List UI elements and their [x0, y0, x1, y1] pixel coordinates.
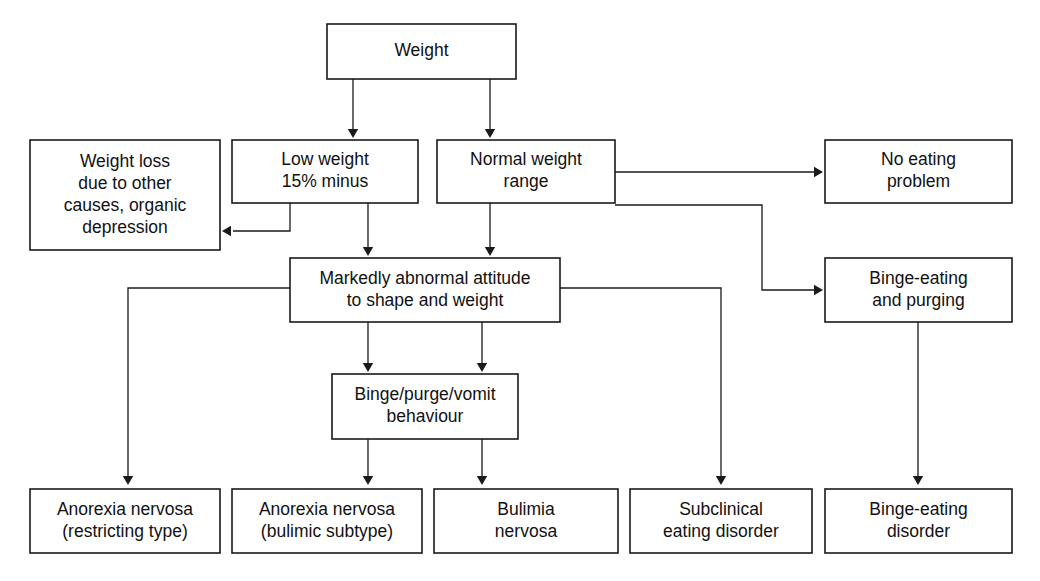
- node-label-line: Weight loss: [80, 151, 170, 171]
- arrowhead-icon: [913, 476, 923, 485]
- node-label-line: to shape and weight: [347, 290, 504, 310]
- flowchart-canvas: WeightWeight lossdue to othercauses, org…: [0, 0, 1040, 581]
- flowchart-diagram: WeightWeight lossdue to othercauses, org…: [0, 0, 1040, 581]
- node-label-line: causes, organic: [64, 195, 187, 215]
- node-low-weight: Low weight15% minus: [232, 140, 418, 203]
- arrowhead-icon: [123, 476, 133, 485]
- node-label-line: range: [504, 171, 549, 191]
- edge-normal-weight-to-binge-eating-purging: [615, 205, 823, 295]
- node-anorexia-restricting: Anorexia nervosa(restricting type): [30, 489, 220, 553]
- node-label-line: 15% minus: [282, 171, 369, 191]
- arrowhead-icon: [716, 476, 726, 485]
- arrowhead-icon: [363, 476, 373, 485]
- arrowhead-icon: [814, 167, 823, 177]
- edge-line: [128, 288, 290, 479]
- node-label-line: Binge/purge/vomit: [354, 384, 495, 404]
- node-weight-loss-other: Weight lossdue to othercauses, organicde…: [30, 140, 220, 250]
- arrowhead-icon: [477, 476, 487, 485]
- node-label-line: problem: [887, 171, 950, 191]
- node-label-line: nervosa: [495, 521, 558, 541]
- node-label-line: due to other: [78, 173, 172, 193]
- edge-attitude-to-anorexia-restricting: [123, 288, 290, 485]
- node-bulimia-nervosa: Bulimianervosa: [434, 489, 618, 553]
- node-markedly-abnormal-attitude: Markedly abnormal attitudeto shape and w…: [290, 258, 560, 322]
- edge-normal-weight-to-no-eating-problem: [615, 167, 823, 177]
- node-label-line: Anorexia nervosa: [259, 499, 395, 519]
- node-label-line: (restricting type): [62, 521, 187, 541]
- edge-attitude-to-subclinical: [560, 288, 726, 485]
- edge-line: [615, 205, 814, 290]
- node-no-eating-problem: No eatingproblem: [825, 140, 1012, 203]
- node-label-line: Binge-eating: [869, 268, 967, 288]
- edge-binge-eating-purging-to-binge-eating-disorder: [913, 322, 923, 485]
- arrowhead-icon: [485, 129, 495, 138]
- edge-binge-purge-vomit-to-anorexia-bulimic: [363, 439, 373, 485]
- edge-binge-purge-vomit-to-bulimia: [477, 439, 487, 485]
- edge-weight-to-low-weight: [348, 79, 358, 138]
- edge-attitude-to-binge-purge-vomit-right: [477, 322, 487, 372]
- node-label-line: (bulimic subtype): [261, 521, 393, 541]
- arrowhead-icon: [477, 363, 487, 372]
- node-label-line: No eating: [881, 149, 956, 169]
- node-weight: Weight: [327, 24, 516, 79]
- node-anorexia-bulimic: Anorexia nervosa(bulimic subtype): [232, 489, 422, 553]
- node-label-line: depression: [82, 217, 168, 237]
- edge-line: [560, 288, 721, 479]
- node-label-line: Low weight: [281, 149, 369, 169]
- node-label-line: Anorexia nervosa: [57, 499, 193, 519]
- node-label-line: Weight: [394, 40, 448, 60]
- node-label-line: behaviour: [387, 406, 464, 426]
- node-binge-eating-disorder: Binge-eatingdisorder: [825, 489, 1012, 553]
- arrowhead-icon: [485, 247, 495, 256]
- arrowhead-icon: [363, 247, 373, 256]
- node-label-line: Markedly abnormal attitude: [319, 268, 530, 288]
- node-binge-purge-vomit: Binge/purge/vomitbehaviour: [332, 374, 518, 439]
- node-subclinical-eating-disorder: Subclinicaleating disorder: [630, 489, 812, 553]
- node-label-line: Binge-eating: [869, 499, 967, 519]
- node-label-line: and purging: [872, 290, 964, 310]
- node-label-line: eating disorder: [663, 521, 779, 541]
- arrowhead-icon: [222, 226, 231, 236]
- edge-low-weight-to-attitude: [363, 203, 373, 256]
- arrowhead-icon: [348, 129, 358, 138]
- node-label-line: Subclinical: [679, 499, 763, 519]
- node-label-line: Bulimia: [497, 499, 555, 519]
- node-normal-weight: Normal weightrange: [437, 140, 615, 203]
- edge-line: [233, 203, 290, 231]
- edge-attitude-to-binge-purge-vomit-left: [363, 322, 373, 372]
- node-label-line: Normal weight: [470, 149, 582, 169]
- arrowhead-icon: [363, 363, 373, 372]
- node-binge-eating-purging: Binge-eatingand purging: [825, 258, 1012, 322]
- edge-normal-weight-to-attitude: [485, 203, 495, 256]
- edge-weight-to-normal-weight: [485, 79, 495, 138]
- edge-low-weight-to-weight-loss-other: [222, 203, 290, 236]
- arrowhead-icon: [814, 285, 823, 295]
- node-label-line: disorder: [887, 521, 950, 541]
